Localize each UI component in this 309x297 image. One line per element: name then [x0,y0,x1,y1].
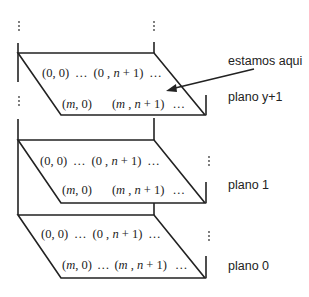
plane-1-label: plano 1 [228,178,269,192]
estamos-aqui-annotation: estamos aqui [166,54,302,92]
plane-y1-bottom-row: (m, 0)(m , n + 1)… [62,97,185,111]
diagram-canvas: (0, 0)…(0 , n + 1)… (m, 0)(m , n + 1)… p… [0,0,309,297]
plane-1-bottom-row: (m, 0)(m , n + 1)… [62,183,185,197]
stacked-planes-diagram: (0, 0)…(0 , n + 1)… (m, 0)(m , n + 1)… p… [0,0,309,297]
plane-1-top-row: (0, 0)…(0 , n + 1)… [40,154,160,168]
plane-0-label: plano 0 [228,259,269,273]
plane-y-plus-1: (0, 0)…(0 , n + 1)… (m, 0)(m , n + 1)… p… [18,42,283,115]
plane-0: (0, 0)…(0 , n + 1)… (m, 0)…(m , n + 1)… … [18,203,269,278]
arrow-head-icon [166,84,177,92]
plane-1: (0, 0)…(0 , n + 1)… (m, 0)(m , n + 1)… p… [18,118,269,215]
plane-0-top-row: (0, 0)…(0 , n + 1)… [41,227,161,241]
top-right-ellipsis [153,21,155,31]
top-left-ellipsis [18,21,20,31]
plane-y1-top-row: (0, 0)…(0 , n + 1)… [42,66,162,80]
annotation-text: estamos aqui [228,54,302,68]
plane-y1-label: plano y+1 [228,90,283,104]
plane-0-bottom-row: (m, 0)…(m , n + 1)… [62,258,187,272]
